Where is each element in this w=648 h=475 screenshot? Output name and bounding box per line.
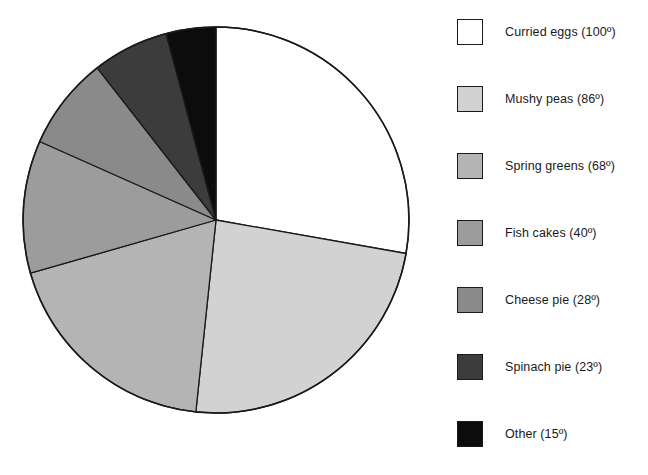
pie-chart-svg [0, 0, 440, 450]
legend-entry[interactable]: Fish cakes (40º) [457, 214, 648, 281]
legend-swatch-spinach-pie [457, 354, 483, 380]
legend-label: Spinach pie (23º) [505, 348, 602, 386]
legend-swatch-curried-eggs [457, 19, 483, 45]
legend-label: Spring greens (68º) [505, 147, 615, 185]
legend-entry[interactable]: Curried eggs (100º) [457, 13, 648, 80]
pie-slice-curried-eggs[interactable] [216, 27, 409, 254]
legend-entry[interactable]: Spinach pie (23º) [457, 348, 648, 415]
legend-swatch-fish-cakes [457, 220, 483, 246]
legend-swatch-cheese-pie [457, 287, 483, 313]
pie-chart-area [0, 0, 440, 450]
legend-entry[interactable]: Other (15º) [457, 415, 648, 475]
legend-swatch-spring-greens [457, 153, 483, 179]
legend-swatch-other [457, 421, 483, 447]
legend-entry[interactable]: Spring greens (68º) [457, 147, 648, 214]
legend-label: Curried eggs (100º) [505, 13, 616, 51]
pie-slice-mushy-peas[interactable] [196, 220, 406, 413]
legend-label: Cheese pie (28º) [505, 281, 600, 319]
legend-label: Other (15º) [505, 415, 568, 453]
legend-entry[interactable]: Cheese pie (28º) [457, 281, 648, 348]
legend-label: Fish cakes (40º) [505, 214, 597, 252]
legend-label: Mushy peas (86º) [505, 80, 604, 118]
chart-legend: Curried eggs (100º)Mushy peas (86º)Sprin… [457, 13, 648, 475]
legend-swatch-mushy-peas [457, 86, 483, 112]
legend-entry[interactable]: Mushy peas (86º) [457, 80, 648, 147]
pie-chart-figure: Curried eggs (100º)Mushy peas (86º)Sprin… [0, 0, 648, 475]
